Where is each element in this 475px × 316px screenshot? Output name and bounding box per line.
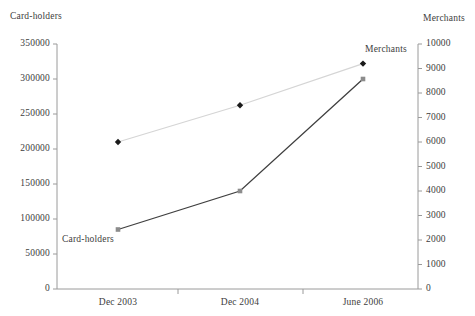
x-axis-category-label: June 2006: [318, 297, 408, 307]
series-line-card-holders: [118, 79, 363, 230]
x-axis-category-label: Dec 2003: [73, 297, 163, 307]
right-axis-tick-label: 1000: [426, 259, 470, 269]
x-axis-category-label: Dec 2004: [195, 297, 285, 307]
left-axis-group: [53, 44, 57, 289]
left-axis-tick-label: 250000: [2, 108, 50, 118]
left-axis-ticks: [53, 44, 57, 289]
data-point-marker: [237, 102, 243, 108]
left-axis-tick-label: 0: [2, 283, 50, 293]
left-axis-tick-label: 50000: [2, 248, 50, 258]
series-annotation-label: Card-holders: [62, 234, 114, 244]
right-axis-ticks: [418, 44, 422, 289]
left-axis-tick-label: 300000: [2, 73, 50, 83]
right-axis-tick-label: 0: [426, 283, 470, 293]
right-axis-tick-label: 6000: [426, 136, 470, 146]
right-axis-tick-label: 9000: [426, 63, 470, 73]
right-axis-group: [418, 44, 422, 289]
right-axis-tick-label: 4000: [426, 185, 470, 195]
right-axis-tick-label: 5000: [426, 161, 470, 171]
chart-container: Card-holders Merchants 05000010000015000…: [0, 0, 475, 316]
right-axis-tick-label: 8000: [426, 87, 470, 97]
left-axis-tick-label: 200000: [2, 143, 50, 153]
data-point-marker: [238, 189, 243, 194]
right-axis-tick-label: 10000: [426, 38, 470, 48]
left-axis-tick-label: 150000: [2, 178, 50, 188]
data-point-marker: [116, 227, 121, 232]
x-axis-group: [57, 289, 418, 294]
left-axis-tick-label: 350000: [2, 38, 50, 48]
data-point-marker: [361, 77, 366, 82]
series-layer: [115, 60, 366, 231]
x-axis-ticks: [178, 289, 303, 294]
right-axis-tick-label: 3000: [426, 210, 470, 220]
series-annotation-label: Merchants: [365, 44, 407, 54]
right-axis-tick-label: 7000: [426, 112, 470, 122]
right-axis-tick-label: 2000: [426, 234, 470, 244]
left-axis-tick-label: 100000: [2, 213, 50, 223]
data-point-marker: [360, 60, 366, 66]
data-point-marker: [115, 139, 121, 145]
